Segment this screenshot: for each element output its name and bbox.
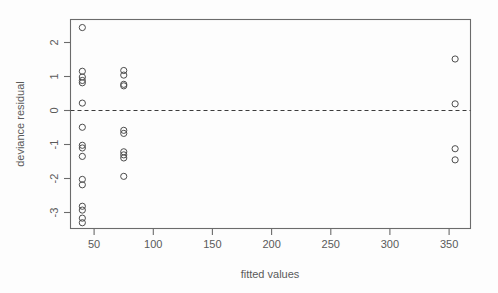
x-tick-label: 300 (381, 238, 399, 250)
plot-background (0, 0, 498, 293)
y-tick-label: -3 (48, 208, 60, 218)
x-tick-label: 200 (262, 238, 280, 250)
y-tick-label: -2 (48, 174, 60, 184)
x-tick-label: 250 (322, 238, 340, 250)
x-axis-title: fitted values (241, 268, 300, 280)
residual-plot-figure: 2 1 0 -1 -2 -3 50 100 150 200 250 300 35… (0, 0, 498, 293)
x-tick-label: 50 (88, 238, 100, 250)
y-axis-title: deviance residual (14, 81, 26, 167)
y-tick-label: 0 (48, 107, 60, 113)
x-tick-label: 350 (440, 238, 458, 250)
x-tick-label: 100 (144, 238, 162, 250)
y-tick-label: 2 (48, 39, 60, 45)
y-tick-label: -1 (48, 140, 60, 150)
y-tick-label: 1 (48, 73, 60, 79)
scatter-plot-canvas: 2 1 0 -1 -2 -3 50 100 150 200 250 300 35… (0, 0, 498, 293)
x-tick-label: 150 (203, 238, 221, 250)
